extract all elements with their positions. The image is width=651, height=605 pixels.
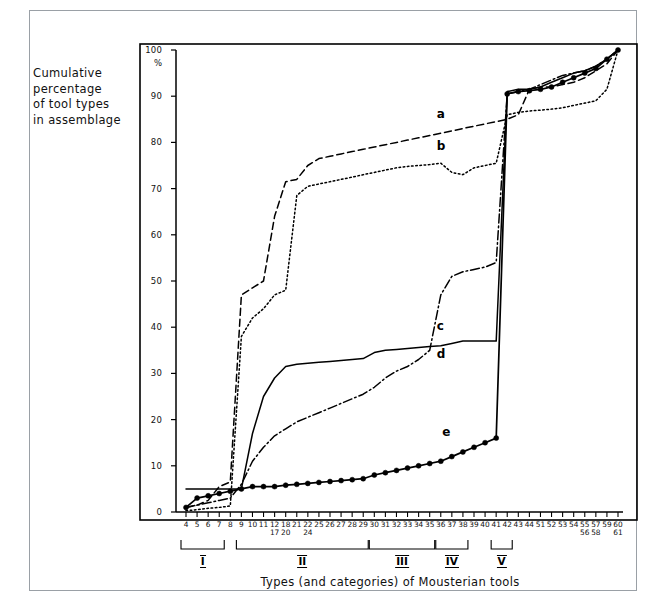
category-label-I: I: [200, 555, 206, 568]
category-label-IV: IV: [445, 555, 459, 568]
y-axis-tick-label: 10: [140, 461, 162, 471]
x-axis-tick-label: 27: [336, 520, 345, 529]
x-axis-tick-sublabel: 61: [613, 529, 622, 538]
x-axis-tick-label: 4: [184, 520, 189, 529]
x-axis-tick-label: 6061: [613, 520, 622, 538]
category-bracket-I: [181, 540, 224, 549]
y-axis-tick-label: 100: [140, 45, 162, 55]
x-axis-tick-label: 25: [314, 520, 323, 529]
x-axis-tick-label: 52: [547, 520, 556, 529]
series-marker-e: [505, 91, 510, 96]
category-bracket-II: [236, 540, 368, 549]
y-axis-tick-label: 80: [140, 137, 162, 147]
series-marker-e: [261, 484, 266, 489]
series-marker-e: [582, 71, 587, 76]
series-marker-e: [184, 505, 189, 510]
series-marker-e: [250, 484, 255, 489]
x-axis-tick-label: 2224: [303, 520, 312, 538]
series-marker-e: [494, 436, 499, 441]
category-label-III: III: [395, 555, 409, 568]
x-axis-tick-label: 54: [569, 520, 578, 529]
series-marker-e: [195, 496, 200, 501]
series-marker-e: [383, 470, 388, 475]
series-marker-e: [283, 483, 288, 488]
series-marker-e: [272, 484, 277, 489]
plot-frame: [140, 44, 637, 520]
series-line-c: [186, 50, 618, 489]
series-marker-e: [516, 89, 521, 94]
series-marker-e: [549, 85, 554, 90]
x-axis-tick-label: 30: [370, 520, 379, 529]
x-axis-tick-label: 36: [436, 520, 445, 529]
series-marker-e: [438, 459, 443, 464]
series-marker-e: [571, 75, 576, 80]
x-axis-tick-label: 5758: [591, 520, 600, 538]
x-axis-tick-label: 1820: [281, 520, 290, 538]
category-bracket-IV: [436, 540, 468, 549]
y-axis-tick-label: 0: [140, 507, 162, 517]
category-bracket-V: [491, 540, 512, 549]
x-axis-tick-label: 1217: [270, 520, 279, 538]
y-axis-tick-label: 40: [140, 322, 162, 332]
series-marker-e: [328, 479, 333, 484]
x-axis-tick-sublabel: 20: [281, 529, 290, 538]
x-axis-tick-label: 35: [425, 520, 434, 529]
x-axis-tick-label: 39: [469, 520, 478, 529]
x-axis-tick-label: 38: [458, 520, 467, 529]
x-axis-tick-label: 41: [491, 520, 500, 529]
x-axis-tick-label: 8: [228, 520, 233, 529]
x-axis-tick-label: 51: [536, 520, 545, 529]
x-axis-tick-label: 31: [381, 520, 390, 529]
x-axis-tick-label: 10: [248, 520, 257, 529]
x-axis-tick-label: 5: [195, 520, 200, 529]
y-axis-tick-label: 70: [140, 184, 162, 194]
series-marker-e: [239, 486, 244, 491]
curve-label-b: b: [437, 139, 446, 153]
x-axis-tick-sublabel: 17: [270, 529, 279, 538]
x-axis-tick-label: 6: [206, 520, 211, 529]
series-marker-e: [527, 88, 532, 93]
series-marker-e: [372, 473, 377, 478]
series-marker-e: [472, 445, 477, 450]
category-bracket-III: [369, 540, 434, 549]
x-axis-tick-label: 32: [392, 520, 401, 529]
series-marker-e: [604, 57, 609, 62]
series-marker-e: [560, 80, 565, 85]
x-axis-tick-sublabel: 56: [580, 529, 589, 538]
series-marker-e: [593, 66, 598, 71]
series-marker-e: [427, 461, 432, 466]
series-marker-e: [616, 48, 621, 53]
series-marker-e: [460, 449, 465, 454]
series-marker-e: [350, 477, 355, 482]
series-marker-e: [416, 463, 421, 468]
curve-label-e: e: [442, 425, 450, 439]
x-axis-tick-label: 29: [359, 520, 368, 529]
x-axis-tick-sublabel: 24: [303, 529, 312, 538]
series-marker-e: [217, 491, 222, 496]
x-axis-tick-label: 37: [447, 520, 456, 529]
series-marker-e: [316, 480, 321, 485]
category-label-II: II: [297, 555, 307, 568]
series-marker-e: [449, 454, 454, 459]
series-marker-e: [361, 476, 366, 481]
x-axis-tick-label: 7: [217, 520, 222, 529]
y-axis-tick-label: 60: [140, 230, 162, 240]
y-axis-tick-label: 20: [140, 415, 162, 425]
x-axis-tick-sublabel: 58: [591, 529, 600, 538]
x-axis-tick-label: 11: [259, 520, 268, 529]
series-marker-e: [538, 87, 543, 92]
series-marker-e: [394, 468, 399, 473]
x-axis-tick-label: 34: [414, 520, 423, 529]
x-axis-tick-label: 28: [347, 520, 356, 529]
y-axis-tick-label: 50: [140, 276, 162, 286]
x-axis-tick-label: 44: [525, 520, 534, 529]
series-marker-e: [483, 440, 488, 445]
x-axis-tick-label: 59: [602, 520, 611, 529]
series-marker-e: [228, 489, 233, 494]
x-axis-tick-label: 42: [503, 520, 512, 529]
percent-symbol: %: [154, 58, 162, 68]
chart-canvas: [0, 0, 651, 605]
category-label-V: V: [497, 555, 507, 568]
series-marker-e: [206, 493, 211, 498]
curve-label-c: c: [437, 319, 444, 333]
